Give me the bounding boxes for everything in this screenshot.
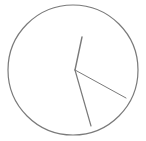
- second-hand: [75, 70, 126, 98]
- hour-hand: [75, 37, 82, 70]
- minute-hand: [75, 70, 91, 126]
- clock-icon: [0, 0, 146, 141]
- clock-face: [8, 5, 138, 135]
- clock-canvas: Analog clock face: [0, 0, 146, 141]
